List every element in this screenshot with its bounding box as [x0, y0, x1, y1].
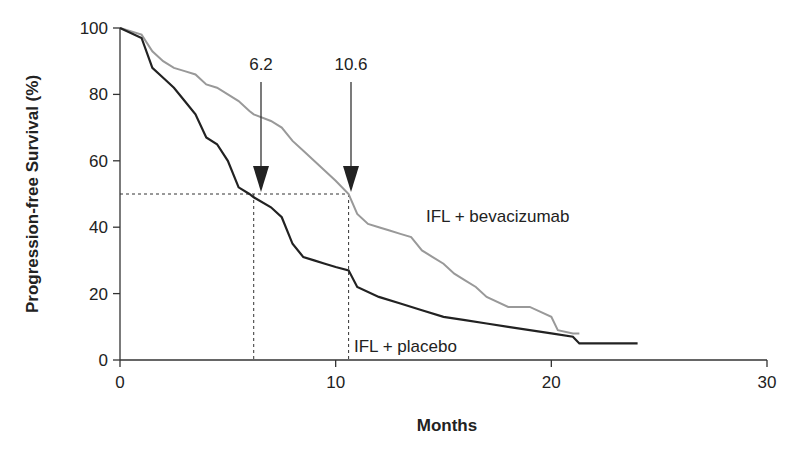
- y-ticks: 020406080100: [80, 19, 120, 370]
- series-label-bevacizumab: IFL + bevacizumab: [426, 207, 569, 226]
- x-axis-title: Months: [417, 416, 477, 435]
- arrow-label-10-6: 10.6: [334, 55, 367, 74]
- y-tick-label: 60: [89, 152, 108, 171]
- x-tick-label: 20: [542, 373, 561, 392]
- arrow-bev-median: 10.6: [334, 55, 367, 192]
- y-axis-title: Progression-free Survival (%): [23, 75, 42, 313]
- arrow-down-icon: [343, 166, 359, 192]
- median-lines: [120, 194, 349, 360]
- y-tick-label: 20: [89, 285, 108, 304]
- y-tick-label: 100: [80, 19, 108, 38]
- series-label-placebo: IFL + placebo: [354, 337, 457, 356]
- arrow-down-icon: [253, 166, 269, 192]
- y-tick-label: 40: [89, 218, 108, 237]
- arrow-placebo-median: 6.2: [249, 55, 273, 192]
- x-tick-label: 0: [115, 373, 124, 392]
- x-ticks: 0102030: [115, 360, 776, 392]
- y-tick-label: 0: [99, 351, 108, 370]
- x-tick-label: 30: [758, 373, 777, 392]
- x-tick-label: 10: [326, 373, 345, 392]
- km-chart: 020406080100 0102030 6.2 10.6 IFL + beva…: [0, 0, 796, 461]
- y-tick-label: 80: [89, 85, 108, 104]
- arrow-label-6-2: 6.2: [249, 55, 273, 74]
